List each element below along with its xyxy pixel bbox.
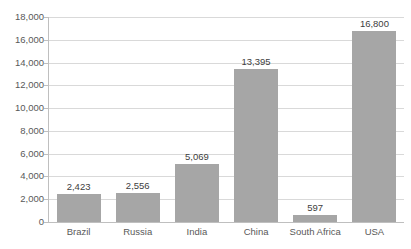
y-axis-tick-label: 14,000 bbox=[0, 58, 44, 68]
bar-value-label: 597 bbox=[307, 202, 323, 213]
y-axis-tick-label: 4,000 bbox=[0, 171, 44, 181]
bar bbox=[57, 194, 101, 222]
y-axis-tick-label: 10,000 bbox=[0, 103, 44, 113]
y-axis-tick bbox=[44, 131, 48, 132]
y-axis-tick-label: 2,000 bbox=[0, 194, 44, 204]
y-axis-tick-label: 6,000 bbox=[0, 149, 44, 159]
y-axis-labels: 02,0004,0006,0008,00010,00012,00014,0001… bbox=[0, 0, 44, 249]
bar-value-label: 16,800 bbox=[360, 18, 389, 29]
bar bbox=[175, 164, 219, 222]
bar-value-label: 13,395 bbox=[242, 56, 271, 67]
y-axis-tick-label: 0 bbox=[0, 217, 44, 227]
x-axis-category-label: USA bbox=[345, 226, 404, 238]
bar-group: 597 bbox=[286, 17, 345, 222]
bar-chart: 02,0004,0006,0008,00010,00012,00014,0001… bbox=[0, 0, 411, 249]
x-axis-category-label: Russia bbox=[108, 226, 167, 238]
y-axis-tick bbox=[44, 199, 48, 200]
bars-layer: 2,4232,5565,06913,39559716,800 bbox=[49, 17, 404, 222]
y-axis-tick-label: 8,000 bbox=[0, 126, 44, 136]
y-axis-tick bbox=[44, 108, 48, 109]
y-axis-tick bbox=[44, 85, 48, 86]
bar-value-label: 5,069 bbox=[185, 151, 209, 162]
x-axis-category-label: China bbox=[227, 226, 286, 238]
bar-group: 2,423 bbox=[49, 17, 108, 222]
y-axis-tick bbox=[44, 176, 48, 177]
bar bbox=[293, 215, 337, 222]
y-axis-tick bbox=[44, 17, 48, 18]
bar bbox=[116, 193, 160, 222]
bar-value-label: 2,556 bbox=[126, 180, 150, 191]
bar-group: 13,395 bbox=[227, 17, 286, 222]
y-axis-tick bbox=[44, 63, 48, 64]
x-axis-labels: BrazilRussiaIndiaChinaSouth AfricaUSA bbox=[49, 226, 404, 242]
bar bbox=[352, 31, 396, 222]
y-axis-tick-label: 12,000 bbox=[0, 80, 44, 90]
bar-group: 5,069 bbox=[167, 17, 226, 222]
gridline bbox=[48, 222, 404, 223]
bar-value-label: 2,423 bbox=[67, 181, 91, 192]
bar bbox=[234, 69, 278, 222]
bar-group: 16,800 bbox=[345, 17, 404, 222]
y-axis-tick bbox=[44, 154, 48, 155]
x-axis-category-label: South Africa bbox=[286, 226, 345, 238]
y-axis-tick-label: 16,000 bbox=[0, 35, 44, 45]
y-axis-tick bbox=[44, 40, 48, 41]
y-axis-tick bbox=[44, 222, 48, 223]
x-axis-category-label: India bbox=[167, 226, 226, 238]
y-axis-tick-label: 18,000 bbox=[0, 12, 44, 22]
x-axis-category-label: Brazil bbox=[49, 226, 108, 238]
bar-group: 2,556 bbox=[108, 17, 167, 222]
